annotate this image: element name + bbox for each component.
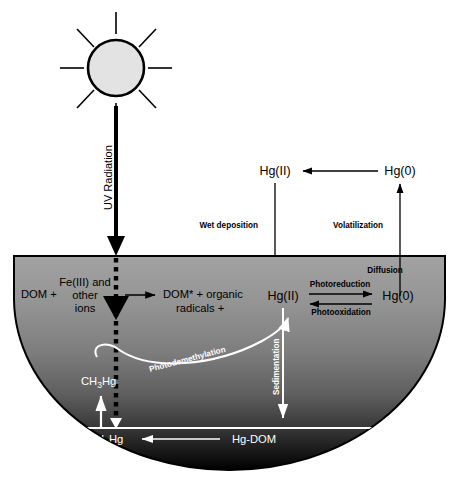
hg2-air-label: Hg(II) [259,164,290,178]
photooxidation-label: Photooxidation [311,308,371,317]
mercury-cycling-diagram: UV Radiation Hg(II) Hg(0) Wet deposition… [0,0,459,488]
uv-radiation-label: UV Radiation [102,145,114,210]
hg2-water-label: Hg(II) [267,289,298,303]
wet-deposition-label: Wet deposition [199,221,258,230]
volatilization-label: Volatilization [333,221,383,230]
fe-iii-label: Fe(III) and [59,276,111,288]
radicals-label: radicals + [176,302,224,314]
dom-product-label: DOM* + organic [163,288,243,300]
dom-reactant-label: DOM + [21,288,57,300]
ions-label: ions [75,302,96,314]
hg0-air-label: Hg(0) [384,164,415,178]
ch3hg-sed-prefix: CH [88,433,104,445]
hg0-water-label: Hg(0) [382,289,413,303]
ch3hg-water-post: Hg [102,375,116,387]
sedimentation-label: Sedimentation [272,339,281,395]
photoreduction-label: Photoreduction [310,280,371,289]
hg-dom-sediment-label: Hg-DOM [232,433,276,445]
ch3hg-water-prefix: CH [81,375,97,387]
ch3hg-sed-post: Hg [109,433,123,445]
diffusion-label: Diffusion [367,266,402,275]
other-label: other [72,289,98,301]
diagram-canvas: UV Radiation Hg(II) Hg(0) Wet deposition… [0,0,459,488]
